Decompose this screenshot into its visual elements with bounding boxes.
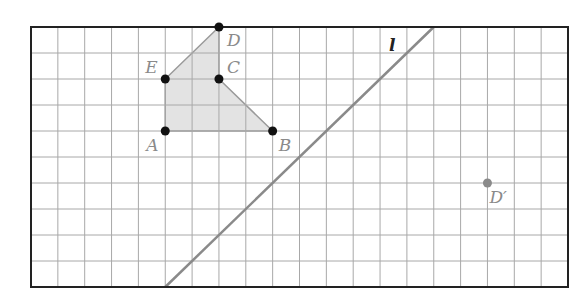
point-b bbox=[268, 127, 277, 136]
point-label-a: A bbox=[144, 135, 158, 155]
point-label-b: B bbox=[278, 135, 292, 155]
point-c bbox=[214, 75, 223, 84]
point-d bbox=[214, 23, 223, 32]
reflection-grid-figure: ABCDED′ l bbox=[0, 0, 584, 299]
point-label-d-prime: D′ bbox=[488, 187, 507, 207]
point-e bbox=[161, 75, 170, 84]
point-label-e: E bbox=[144, 57, 158, 77]
point-label-d: D bbox=[226, 30, 241, 50]
line-l-label: l bbox=[389, 35, 396, 55]
point-label-c: C bbox=[227, 57, 240, 77]
point-a bbox=[161, 127, 170, 136]
